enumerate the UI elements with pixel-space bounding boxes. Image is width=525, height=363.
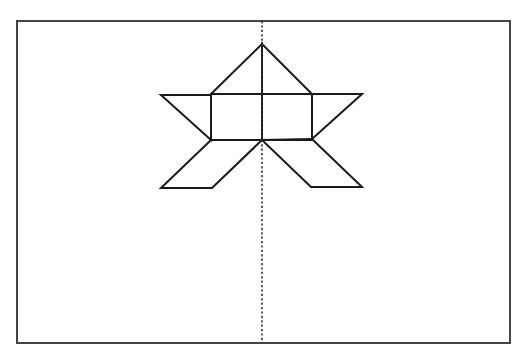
right-square: [262, 94, 312, 140]
right-parallelogram: [262, 139, 362, 187]
roof-left-triangle: [211, 44, 262, 94]
frame-border: [17, 21, 510, 343]
left-square: [211, 94, 262, 140]
roof-right-triangle: [262, 44, 312, 94]
diagram-canvas: [0, 0, 525, 363]
left-wing-triangle: [161, 95, 211, 140]
left-parallelogram: [161, 140, 262, 188]
right-wing-triangle: [312, 94, 362, 139]
